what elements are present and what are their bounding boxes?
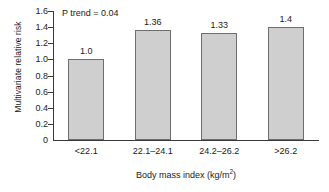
y-axis-tick-label: 0	[16, 136, 48, 145]
bar-value-label: 1.36	[120, 18, 187, 27]
y-axis-tick-label: 0.6	[16, 87, 48, 96]
y-axis-tick-label: 1.0	[16, 55, 48, 64]
y-axis-tick-label: 1.6	[16, 7, 48, 16]
y-axis-tick-label: 0.4	[16, 103, 48, 112]
x-axis-title-suffix: )	[233, 170, 236, 180]
plot-area: 1.01.361.331.4	[53, 11, 319, 140]
y-axis-tick-mark	[48, 108, 53, 109]
y-axis-tick-label: 0.8	[16, 71, 48, 80]
p-trend-annotation: P trend = 0.04	[62, 8, 119, 18]
y-axis-tick-labels: 1.61.41.21.00.80.60.40.20	[16, 0, 48, 192]
bar-chart: Multivariate relative risk 1.61.41.21.00…	[0, 0, 329, 192]
bar-group[interactable]: 1.0	[53, 11, 120, 140]
y-axis-tick-mark	[48, 43, 53, 44]
y-axis-tick-mark	[48, 92, 53, 93]
x-axis-tick-label: <22.1	[53, 146, 120, 156]
y-axis-tick-mark	[48, 11, 53, 12]
x-axis-tick-labels: <22.122.1–24.124.2–26.2>26.2	[53, 146, 319, 160]
y-axis-tick-label: 0.2	[16, 119, 48, 128]
y-axis-tick-mark	[48, 27, 53, 28]
x-axis-tick-label: >26.2	[253, 146, 320, 156]
x-axis-title-text: Body mass index (kg/m	[136, 170, 230, 180]
y-axis-tick-label: 1.4	[16, 23, 48, 32]
x-axis-tick-label: 22.1–24.1	[120, 146, 187, 156]
bar[interactable]	[268, 27, 304, 140]
bar[interactable]	[68, 59, 104, 140]
y-axis-tick-label: 1.2	[16, 39, 48, 48]
bar-group[interactable]: 1.36	[120, 11, 187, 140]
x-axis-line	[53, 140, 319, 141]
bar-value-label: 1.0	[53, 47, 120, 56]
y-axis-tick-mark	[48, 76, 53, 77]
bar[interactable]	[135, 30, 171, 140]
x-axis-title: Body mass index (kg/m2)	[53, 170, 319, 181]
bar-value-label: 1.33	[186, 21, 253, 30]
bar-group[interactable]: 1.4	[253, 11, 320, 140]
bar[interactable]	[201, 33, 237, 140]
y-axis-tick-mark	[48, 124, 53, 125]
bar-value-label: 1.4	[253, 15, 320, 24]
y-axis-tick-mark	[48, 59, 53, 60]
bar-group[interactable]: 1.33	[186, 11, 253, 140]
x-axis-tick-label: 24.2–26.2	[186, 146, 253, 156]
